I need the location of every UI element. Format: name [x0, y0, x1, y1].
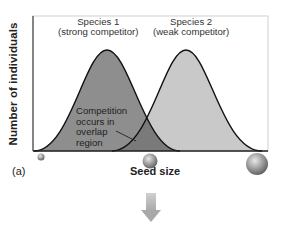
overlap-annotation: Competition occurs in overlap region: [76, 106, 127, 148]
panel-label: (a): [12, 165, 25, 177]
species-2-label: Species 2 (weak competitor): [153, 17, 229, 37]
species-1-label: Species 1 (strong competitor): [58, 17, 139, 37]
overlap-annotation-line-4: region: [76, 138, 127, 149]
large-seed-icon: [246, 153, 268, 175]
overlap-annotation-line-1: Competition: [76, 106, 127, 117]
overlap-annotation-line-3: overlap: [76, 127, 127, 138]
down-arrow-icon: [141, 193, 161, 222]
species-2-role: (weak competitor): [153, 27, 229, 37]
niche-overlap-diagram: [0, 0, 282, 229]
x-axis-label: Seed size: [130, 165, 180, 177]
small-seed-icon: [38, 154, 45, 161]
species-1-role: (strong competitor): [58, 27, 139, 37]
y-axis-label-text: Number of individuals: [7, 23, 19, 146]
y-axis-label: Number of individuals: [2, 16, 24, 152]
